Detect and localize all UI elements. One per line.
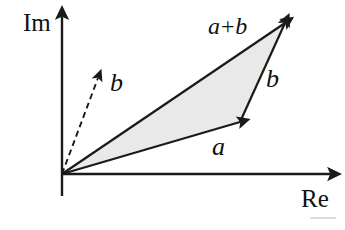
real-axis-label: Re: [301, 186, 329, 211]
imaginary-axis-label: Im: [23, 10, 51, 35]
complex-plane-vector-diagram: Im Re a b b a+b: [0, 0, 345, 230]
vector-b-dashed-label: b: [110, 70, 123, 96]
vector-a-label: a: [212, 134, 225, 160]
diagram-canvas: [0, 0, 345, 230]
vector-b-translated-label: b: [266, 66, 279, 92]
vector-a-plus-b-label: a+b: [208, 14, 247, 38]
